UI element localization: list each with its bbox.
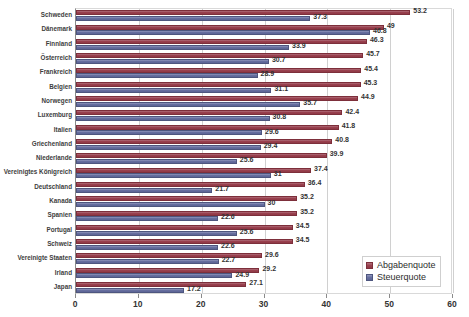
bar-group: 41.829.6 — [76, 123, 453, 137]
bar-value-abgabenquote: 34.5 — [296, 222, 310, 230]
axis-tick — [452, 294, 453, 298]
bar-abgabenquote[interactable] — [76, 39, 367, 44]
bar-abgabenquote[interactable] — [76, 282, 246, 287]
bar-abgabenquote[interactable] — [76, 268, 259, 273]
legend-label-steuerquote: Steuerquote — [377, 272, 426, 283]
axis-tick — [326, 294, 327, 298]
bar-steuerquote[interactable] — [76, 159, 237, 164]
bar-abgabenquote[interactable] — [76, 82, 361, 87]
bar-value-abgabenquote: 29.6 — [265, 251, 279, 259]
bar-group: 37.431 — [76, 166, 453, 180]
axis-tick-label: 60 — [437, 299, 467, 310]
legend-item-steuerquote[interactable]: Steuerquote — [366, 271, 436, 283]
bar-abgabenquote[interactable] — [76, 211, 297, 216]
bar-value-steuerquote: 25.6 — [240, 228, 254, 236]
bar-steuerquote[interactable] — [76, 231, 237, 236]
bar-value-abgabenquote: 42.4 — [345, 108, 359, 116]
axis-tick — [138, 294, 139, 298]
bar-value-steuerquote: 22.6 — [221, 242, 235, 250]
category-label: Schweiz — [0, 240, 72, 248]
axis-tick-label: 10 — [123, 299, 153, 310]
bar-steuerquote[interactable] — [76, 73, 258, 78]
axis-tick — [264, 294, 265, 298]
bar-abgabenquote[interactable] — [76, 196, 297, 201]
bar-steuerquote[interactable] — [76, 16, 310, 21]
bar-value-steuerquote: 17.2 — [187, 285, 201, 293]
axis-tick-label: 40 — [311, 299, 341, 310]
bar-abgabenquote[interactable] — [76, 68, 361, 73]
bar-steuerquote[interactable] — [76, 102, 300, 107]
bar-group: 34.522.6 — [76, 238, 453, 252]
category-label: Griechenland — [0, 140, 72, 148]
bar-steuerquote[interactable] — [76, 45, 289, 50]
bar-steuerquote[interactable] — [76, 245, 218, 250]
category-label: Schweden — [0, 11, 72, 19]
category-label: Italien — [0, 126, 72, 134]
bar-value-steuerquote: 37.3 — [313, 13, 327, 21]
bar-group: 35.222.6 — [76, 209, 453, 223]
bar-abgabenquote[interactable] — [76, 225, 293, 230]
bar-abgabenquote[interactable] — [76, 182, 305, 187]
bar-value-steuerquote: 29.6 — [265, 128, 279, 136]
bar-value-abgabenquote: 37.4 — [314, 165, 328, 173]
bar-group: 42.430.8 — [76, 109, 453, 123]
bar-steuerquote[interactable] — [76, 202, 265, 207]
bar-group: 53.237.3 — [76, 9, 453, 23]
bar-abgabenquote[interactable] — [76, 239, 293, 244]
bar-steuerquote[interactable] — [76, 116, 270, 121]
legend-label-abgabenquote: Abgabenquote — [377, 260, 436, 271]
bar-steuerquote[interactable] — [76, 88, 271, 93]
axis-tick — [389, 294, 390, 298]
bar-value-abgabenquote: 49 — [387, 22, 395, 30]
bar-steuerquote[interactable] — [76, 216, 218, 221]
bar-value-abgabenquote: 34.5 — [296, 236, 310, 244]
legend-swatch-steuerquote-icon — [366, 274, 373, 281]
bar-abgabenquote[interactable] — [76, 10, 410, 15]
bar-group: 4946.8 — [76, 23, 453, 37]
bar-abgabenquote[interactable] — [76, 53, 363, 58]
plot-area: 53.237.34946.846.333.945.730.745.428.945… — [75, 8, 452, 294]
bar-value-abgabenquote: 45.7 — [366, 50, 380, 58]
axis-tick-label: 0 — [60, 299, 90, 310]
bar-value-steuerquote: 46.8 — [373, 27, 387, 35]
gridline — [453, 9, 454, 293]
bar-value-steuerquote: 25.6 — [240, 156, 254, 164]
bar-steuerquote[interactable] — [76, 30, 370, 35]
bar-steuerquote[interactable] — [76, 130, 262, 135]
bar-steuerquote[interactable] — [76, 288, 184, 293]
bar-abgabenquote[interactable] — [76, 25, 384, 30]
axis-tick-label: 30 — [249, 299, 279, 310]
bar-value-abgabenquote: 36.4 — [308, 179, 322, 187]
category-label: Norwegen — [0, 97, 72, 105]
bar-group: 36.421.7 — [76, 181, 453, 195]
bar-value-abgabenquote: 29.2 — [262, 265, 276, 273]
bar-value-steuerquote: 24.9 — [235, 271, 249, 279]
bar-value-abgabenquote: 45.4 — [364, 65, 378, 73]
bar-steuerquote[interactable] — [76, 59, 269, 64]
bar-steuerquote[interactable] — [76, 188, 212, 193]
bar-value-steuerquote: 31 — [274, 170, 282, 178]
bar-steuerquote[interactable] — [76, 145, 261, 150]
bar-abgabenquote[interactable] — [76, 125, 339, 130]
bar-group: 46.333.9 — [76, 38, 453, 52]
value-axis: 0102030405060 — [75, 294, 452, 317]
bar-value-steuerquote: 29.4 — [264, 142, 278, 150]
legend-item-abgabenquote[interactable]: Abgabenquote — [366, 259, 436, 271]
axis-tick — [201, 294, 202, 298]
bar-abgabenquote[interactable] — [76, 153, 327, 158]
category-label: Finnland — [0, 40, 72, 48]
bar-value-abgabenquote: 53.2 — [413, 7, 427, 15]
bar-value-steuerquote: 28.9 — [261, 70, 275, 78]
bar-abgabenquote[interactable] — [76, 110, 342, 115]
bar-group: 39.925.6 — [76, 152, 453, 166]
bar-steuerquote[interactable] — [76, 273, 232, 278]
bar-abgabenquote[interactable] — [76, 139, 332, 144]
bar-value-steuerquote: 30.8 — [273, 113, 287, 121]
bar-value-abgabenquote: 27.1 — [249, 279, 263, 287]
category-label: Dänemark — [0, 25, 72, 33]
category-label: Spanien — [0, 211, 72, 219]
bar-steuerquote[interactable] — [76, 173, 271, 178]
category-label: Frankreich — [0, 68, 72, 76]
bar-value-steuerquote: 22.6 — [221, 213, 235, 221]
bar-steuerquote[interactable] — [76, 259, 219, 264]
